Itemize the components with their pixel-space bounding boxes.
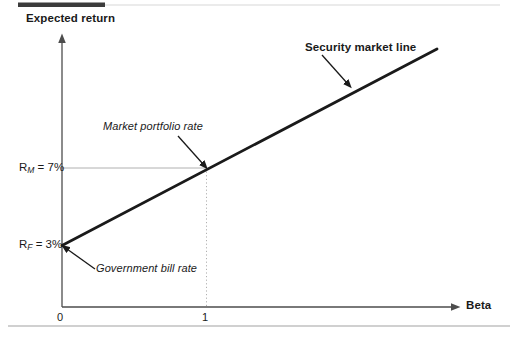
chart-canvas: [0, 0, 518, 340]
y-value-label-rm: RM = 7%: [19, 162, 64, 174]
market-portfolio-rate-label: Market portfolio rate: [103, 121, 203, 132]
security-market-line-arrow: [322, 55, 347, 83]
rm-value: = 7%: [34, 161, 64, 173]
rf-value: = 3%: [33, 238, 63, 250]
rm-subscript: M: [27, 165, 34, 175]
security-market-line-label: Security market line: [305, 42, 416, 54]
x-tick-label-1: 1: [202, 312, 208, 323]
rf-subscript: F: [27, 242, 32, 252]
security-market-line-plot: [62, 49, 437, 246]
x-tick-label-0: 0: [57, 312, 63, 323]
market-portfolio-rate-arrow: [178, 136, 203, 164]
y-value-label-rf: RF = 3%: [19, 239, 62, 251]
security-market-line-figure: Expected return Beta Security market lin…: [0, 0, 518, 340]
top-decoration-bar: [18, 3, 105, 8]
government-bill-rate-label: Government bill rate: [96, 263, 197, 274]
x-axis-title: Beta: [466, 300, 491, 312]
government-bill-rate-arrow: [67, 249, 95, 269]
y-axis-title: Expected return: [26, 13, 115, 25]
